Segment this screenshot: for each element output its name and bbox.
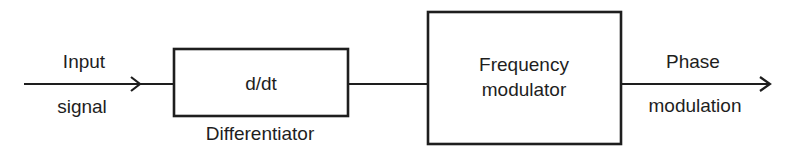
- differentiator-content: d/dt: [245, 74, 277, 93]
- differentiator-caption: Differentiator: [206, 124, 314, 143]
- frequency-modulator-line1: Frequency: [479, 55, 569, 74]
- input-label-bottom: signal: [57, 97, 107, 116]
- frequency-modulator-box: [428, 12, 621, 144]
- diagram-graphics: [0, 0, 787, 153]
- output-label-top: Phase: [666, 52, 720, 71]
- output-label-bottom: modulation: [649, 96, 742, 115]
- input-label-top: Input: [63, 52, 105, 71]
- frequency-modulator-line2: modulator: [482, 80, 567, 99]
- block-diagram: Input signal d/dt Differentiator Frequen…: [0, 0, 787, 153]
